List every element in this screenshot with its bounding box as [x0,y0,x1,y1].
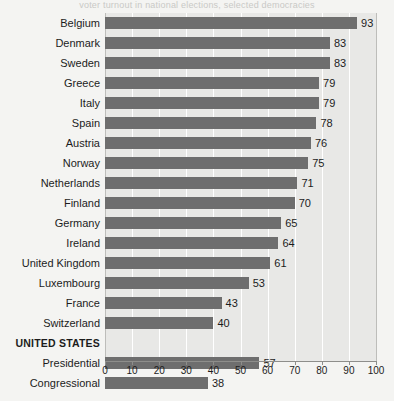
bar [105,97,319,109]
chart-rows: Belgium93Denmark83Sweden83Greece79Italy7… [0,13,394,361]
bar [105,297,222,309]
bar-value-label: 64 [282,233,294,253]
x-tick-label-20: 20 [144,365,174,376]
chart-row: Switzerland40 [0,313,394,333]
bar-value-label: 75 [312,153,324,173]
row-label: United Kingdom [0,253,100,273]
row-label: Denmark [0,33,100,53]
chart-row: Greece79 [0,73,394,93]
bar-value-label: 65 [285,213,297,233]
x-tick-label-100: 100 [361,365,391,376]
clipped-caption-text: voter turnout in national elections, sel… [0,0,394,11]
chart-row: Luxembourg53 [0,273,394,293]
row-label: Finland [0,193,100,213]
bar-value-label: 71 [301,173,313,193]
chart-row: Finland70 [0,193,394,213]
bar-value-label: 61 [274,253,286,273]
bar-value-label: 53 [253,273,265,293]
bar [105,57,330,69]
bar [105,317,213,329]
bar [105,277,249,289]
x-tick-label-80: 80 [307,365,337,376]
chart-row: Ireland64 [0,233,394,253]
row-label: Belgium [0,13,100,33]
bar [105,157,308,169]
chart-row: Austria76 [0,133,394,153]
row-label: Germany [0,213,100,233]
chart-row: Sweden83 [0,53,394,73]
row-label: Sweden [0,53,100,73]
chart-row: Denmark83 [0,33,394,53]
bar [105,37,330,49]
x-tick-label-40: 40 [198,365,228,376]
bar-value-label: 76 [315,133,327,153]
bar-value-label: 43 [226,293,238,313]
bar [105,177,297,189]
x-tick-label-30: 30 [171,365,201,376]
row-label: Ireland [0,233,100,253]
row-label: Spain [0,113,100,133]
bar [105,197,295,209]
bar [105,257,270,269]
x-tick-label-90: 90 [334,365,364,376]
bar-value-label: 78 [320,113,332,133]
x-tick-label-60: 60 [253,365,283,376]
chart-row: France43 [0,293,394,313]
chart-row: Spain78 [0,113,394,133]
bar [105,137,311,149]
row-label: Austria [0,133,100,153]
chart-group-header-row: UNITED STATES [0,333,394,353]
row-label: Italy [0,93,100,113]
bar-value-label: 79 [323,73,335,93]
row-label: Netherlands [0,173,100,193]
chart-row: Norway75 [0,153,394,173]
row-label: UNITED STATES [0,333,100,353]
x-axis: 0102030405060708090100 [105,361,376,381]
row-label: France [0,293,100,313]
chart-row: Netherlands71 [0,173,394,193]
chart-row: Germany65 [0,213,394,233]
chart-row: Belgium93 [0,13,394,33]
chart-row: United Kingdom61 [0,253,394,273]
bar-value-label: 40 [217,313,229,333]
bar-value-label: 79 [323,93,335,113]
x-tick-label-10: 10 [117,365,147,376]
row-label: Norway [0,153,100,173]
bar [105,237,278,249]
x-tick-label-50: 50 [226,365,256,376]
bar [105,17,357,29]
bar-chart-figure: voter turnout in national elections, sel… [0,0,394,401]
x-tick-label-70: 70 [280,365,310,376]
x-tick-label-0: 0 [90,365,120,376]
row-label: Presidential [0,353,100,373]
bar-value-label: 93 [361,13,373,33]
bar [105,77,319,89]
row-label: Congressional [0,373,100,393]
bar-value-label: 83 [334,53,346,73]
bar [105,217,281,229]
bar-value-label: 70 [299,193,311,213]
bar-value-label: 83 [334,33,346,53]
chart-row: Italy79 [0,93,394,113]
row-label: Greece [0,73,100,93]
bar [105,117,316,129]
row-label: Switzerland [0,313,100,333]
row-label: Luxembourg [0,273,100,293]
